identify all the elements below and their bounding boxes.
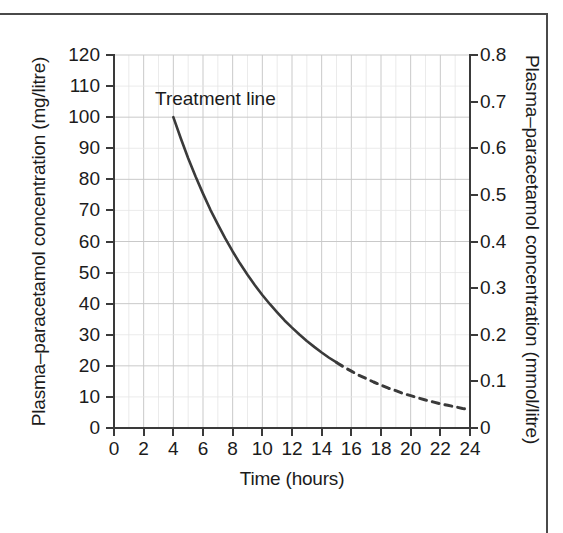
treatment-line-curve <box>114 55 470 428</box>
y-axis-left-tick-mark <box>106 365 113 367</box>
x-axis-tick-mark <box>321 429 323 436</box>
x-axis-title: Time (hours) <box>114 468 470 490</box>
y-axis-left-tick-label: 60 <box>4 231 100 253</box>
treatment-line-annotation: Treatment line <box>155 88 276 110</box>
y-axis-right-tick-label: 0.7 <box>480 91 506 113</box>
y-axis-right-tick-label: 0.1 <box>480 370 506 392</box>
x-axis-tick-label: 16 <box>341 438 362 460</box>
y-axis-right-tick-mark <box>471 241 478 243</box>
y-axis-left-spine <box>113 54 115 429</box>
y-axis-left-tick-label: 30 <box>4 324 100 346</box>
x-axis-tick-mark <box>291 429 293 436</box>
y-axis-left-tick-mark <box>106 396 113 398</box>
y-axis-left-tick-mark <box>106 178 113 180</box>
x-axis-tick-mark <box>232 429 234 436</box>
x-axis-tick-mark <box>172 429 174 436</box>
x-axis-tick-label: 0 <box>109 438 120 460</box>
y-axis-left-tick-mark <box>106 54 113 56</box>
x-axis-tick-label: 10 <box>252 438 273 460</box>
x-axis-tick-label: 24 <box>459 438 480 460</box>
x-axis-tick-label: 6 <box>198 438 209 460</box>
y-axis-left-tick-mark <box>106 241 113 243</box>
y-axis-right-tick-label: 0 <box>480 417 491 439</box>
y-axis-right-tick-mark <box>471 427 478 429</box>
x-axis-tick-label: 18 <box>370 438 391 460</box>
y-axis-left-tick-label: 80 <box>4 168 100 190</box>
y-axis-right-tick-mark <box>471 54 478 56</box>
y-axis-right-tick-label: 0.4 <box>480 231 506 253</box>
x-axis-tick-mark <box>469 429 471 436</box>
y-axis-right-tick-mark <box>471 287 478 289</box>
y-axis-left-tick-mark <box>106 147 113 149</box>
y-axis-left-tick-mark <box>106 116 113 118</box>
y-axis-right-tick-label: 0.3 <box>480 277 506 299</box>
x-axis-tick-label: 22 <box>430 438 451 460</box>
y-axis-left-tick-mark <box>106 209 113 211</box>
y-axis-left-tick-label: 50 <box>4 262 100 284</box>
y-axis-left-tick-label: 10 <box>4 386 100 408</box>
y-axis-left-tick-mark <box>106 272 113 274</box>
y-axis-right-tick-mark <box>471 194 478 196</box>
y-axis-left-tick-label: 90 <box>4 137 100 159</box>
y-axis-right-tick-label: 0.5 <box>480 184 506 206</box>
x-axis-tick-label: 8 <box>227 438 238 460</box>
x-axis-tick-label: 20 <box>400 438 421 460</box>
x-axis-tick-mark <box>143 429 145 436</box>
y-axis-right-tick-mark <box>471 334 478 336</box>
y-axis-right-tick-mark <box>471 380 478 382</box>
y-axis-left-tick-label: 20 <box>4 355 100 377</box>
y-axis-left-tick-label: 70 <box>4 199 100 221</box>
y-axis-left-tick-mark <box>106 85 113 87</box>
x-axis-tick-mark <box>410 429 412 436</box>
x-axis-tick-mark <box>261 429 263 436</box>
x-axis-tick-mark <box>350 429 352 436</box>
y-axis-left-tick-label: 40 <box>4 293 100 315</box>
y-axis-right-tick-mark <box>471 147 478 149</box>
y-axis-right-tick-label: 0.2 <box>480 324 506 346</box>
x-axis-tick-mark <box>113 429 115 436</box>
x-axis-tick-label: 12 <box>281 438 302 460</box>
y-axis-left-tick-label: 120 <box>4 44 100 66</box>
x-axis-tick-mark <box>439 429 441 436</box>
x-axis-tick-label: 2 <box>138 438 149 460</box>
y-axis-left-tick-mark <box>106 334 113 336</box>
y-axis-right-title: Plasma–paracetamol concentration (mmol/l… <box>519 55 545 428</box>
y-axis-right-tick-mark <box>471 101 478 103</box>
y-axis-left-tick-mark <box>106 303 113 305</box>
x-axis-tick-label: 14 <box>311 438 332 460</box>
plot-area <box>114 55 470 428</box>
x-axis-tick-mark <box>380 429 382 436</box>
y-axis-left-tick-label: 110 <box>4 75 100 97</box>
y-axis-right-tick-label: 0.6 <box>480 137 506 159</box>
x-axis-tick-label: 4 <box>168 438 179 460</box>
y-axis-right-tick-label: 0.8 <box>480 44 506 66</box>
x-axis-tick-mark <box>202 429 204 436</box>
y-axis-left-tick-label: 0 <box>4 417 100 439</box>
y-axis-left-tick-label: 100 <box>4 106 100 128</box>
y-axis-left-tick-mark <box>106 427 113 429</box>
